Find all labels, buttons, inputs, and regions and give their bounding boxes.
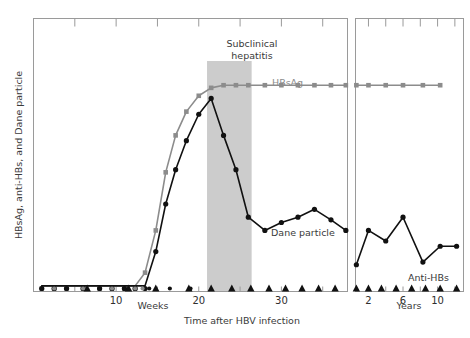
- y-axis-title: HBsAg, anti-HBs, and Dane particle: [13, 71, 24, 239]
- chart-canvas: 1020302610 Weeks Years Time after HBV in…: [0, 0, 470, 338]
- series-hbsag: [39, 83, 348, 291]
- data-point: [312, 207, 317, 212]
- series-line: [42, 98, 346, 285]
- data-point: [354, 83, 359, 88]
- data-point: [454, 244, 459, 249]
- data-point: [153, 228, 158, 233]
- series-line: [42, 85, 346, 286]
- data-point: [353, 285, 360, 292]
- data-point: [173, 167, 178, 172]
- weeks-axis-label: Weeks: [138, 300, 169, 311]
- axis-tick-label: 10: [431, 295, 444, 306]
- data-point: [438, 83, 443, 88]
- data-point: [140, 286, 144, 290]
- data-point: [438, 244, 443, 249]
- series-hbsag-continued: [354, 83, 442, 88]
- chart-figure: 1020302610 Weeks Years Time after HBV in…: [0, 0, 470, 338]
- data-point: [188, 286, 192, 290]
- data-point: [173, 133, 178, 138]
- data-point: [234, 83, 239, 88]
- subclinical-label: Subclinical: [227, 38, 278, 49]
- axis-tick-label: 2: [365, 295, 371, 306]
- data-point: [378, 285, 385, 292]
- data-point: [246, 83, 251, 88]
- data-point: [408, 285, 415, 292]
- axis-tick-label: 10: [110, 295, 123, 306]
- weeks-panel-frame: [34, 19, 348, 292]
- data-point: [168, 286, 172, 290]
- data-point: [184, 138, 189, 143]
- data-point: [262, 228, 267, 233]
- data-point: [98, 286, 102, 290]
- data-point: [401, 83, 406, 88]
- data-point: [329, 83, 334, 88]
- data-point: [392, 285, 399, 292]
- data-point: [196, 93, 201, 98]
- data-point: [163, 170, 168, 175]
- data-point: [383, 83, 388, 88]
- data-point: [64, 286, 68, 290]
- data-point: [110, 286, 114, 290]
- data-point: [366, 83, 371, 88]
- series-line: [356, 217, 456, 265]
- data-point: [52, 286, 56, 290]
- data-point: [279, 220, 284, 225]
- data-point: [152, 285, 159, 292]
- data-point: [422, 285, 429, 292]
- data-point: [328, 217, 333, 222]
- data-point: [233, 167, 238, 172]
- series-dane-particle-continued: [354, 215, 459, 268]
- series-dane-particle: [39, 96, 348, 291]
- data-point: [312, 83, 317, 88]
- data-point: [40, 286, 44, 290]
- data-point: [331, 285, 338, 292]
- data-point: [221, 83, 226, 88]
- data-point: [153, 249, 158, 254]
- data-point: [366, 228, 371, 233]
- hepatitis-label: hepatitis: [231, 50, 272, 61]
- x-axis-title: Time after HBV infection: [183, 315, 300, 326]
- years-top-ticks: [368, 19, 454, 27]
- years-axis-label: Years: [395, 300, 421, 311]
- data-point: [354, 262, 359, 267]
- data-point: [298, 285, 305, 292]
- data-point: [420, 260, 425, 265]
- data-point: [209, 96, 214, 101]
- data-point: [246, 215, 251, 220]
- data-point: [209, 86, 214, 91]
- axis-tick-label: 30: [275, 295, 288, 306]
- data-point: [282, 285, 289, 292]
- data-point: [344, 83, 349, 88]
- dane-particle-label: Dane particle: [271, 227, 335, 238]
- data-point: [343, 228, 348, 233]
- axis-tick-label: 20: [192, 295, 205, 306]
- years-panel-frame: [356, 19, 464, 292]
- data-point: [383, 238, 388, 243]
- data-point: [133, 286, 137, 290]
- data-point: [184, 109, 189, 114]
- data-point: [365, 285, 372, 292]
- data-point: [295, 215, 300, 220]
- data-point: [143, 270, 148, 275]
- data-point: [147, 286, 151, 290]
- data-point: [263, 83, 268, 88]
- data-point: [421, 83, 426, 88]
- data-point: [81, 286, 85, 290]
- series-anti-hbs-continued: [353, 285, 461, 292]
- data-point: [221, 133, 226, 138]
- data-point: [400, 215, 405, 220]
- subclinical-hepatitis-band: [207, 61, 252, 292]
- data-point: [196, 112, 201, 117]
- weeks-top-ticks: [75, 19, 323, 27]
- data-point: [163, 201, 168, 206]
- data-point: [315, 285, 322, 292]
- data-point: [122, 286, 126, 290]
- anti-hbs-label: Anti-HBs: [408, 272, 449, 283]
- data-point: [453, 285, 460, 292]
- data-point: [265, 285, 272, 292]
- hbsag-label: HBsAg: [272, 77, 303, 88]
